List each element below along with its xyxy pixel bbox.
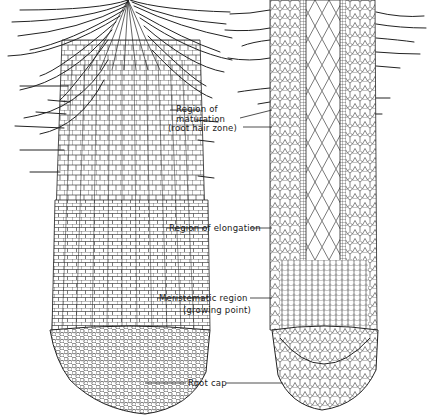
left-root [8,0,232,414]
label-root-cap: Root cap [188,378,227,388]
label-maturation-line1: Region of [176,104,218,114]
label-meristematic-line2: (growing point) [183,305,251,315]
right-root [225,0,426,410]
label-meristematic-line1: Meristematic region [159,293,248,303]
root-tip-diagram: Region of maturation (root hair zone) Re… [0,0,433,419]
diagram-canvas [0,0,433,419]
label-maturation-line3: (root hair zone) [168,123,237,133]
label-elongation: Region of elongation [169,223,261,233]
